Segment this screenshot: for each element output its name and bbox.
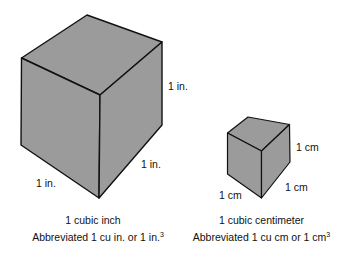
small-cube-abbrev-text: Abbreviated 1 cu cm or 1 cm	[193, 231, 327, 243]
large-cube-height-label: 1 in.	[168, 80, 188, 92]
large-cube-caption-abbrev: Abbreviated 1 cu in. or 1 in.3	[0, 231, 196, 244]
large-cube-caption-title: 1 cubic inch	[0, 214, 186, 227]
small-cube-caption-title: 1 cubic centimeter	[176, 214, 347, 227]
small-cube-width-label: 1 cm	[219, 189, 242, 201]
large-cube-depth-label: 1 in.	[141, 158, 161, 170]
large-cube-abbrev-exponent: 3	[160, 231, 164, 238]
small-cube-abbrev-exponent: 3	[326, 231, 330, 238]
large-cube	[21, 15, 162, 198]
small-cube-caption-abbrev: Abbreviated 1 cu cm or 1 cm3	[176, 231, 347, 244]
small-cube-height-label: 1 cm	[296, 141, 319, 153]
small-cube-depth-label: 1 cm	[285, 181, 308, 193]
large-cube-width-label: 1 in.	[36, 177, 56, 189]
small-cube	[228, 117, 291, 198]
large-cube-abbrev-text: Abbreviated 1 cu in. or 1 in.	[32, 231, 160, 243]
